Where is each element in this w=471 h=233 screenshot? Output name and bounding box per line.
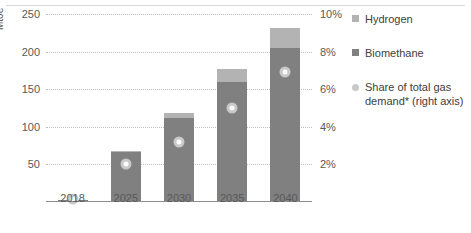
share-data-point[interactable] <box>280 67 291 78</box>
x-axis-tick-label: 2035 <box>220 192 244 204</box>
legend-label: Biomethane <box>365 46 424 60</box>
legend-item-biomethane[interactable]: Biomethane <box>352 46 467 60</box>
y-axis-tick-label: 150 <box>0 83 40 95</box>
secondary-y-axis-tick-label: 8% <box>320 46 354 58</box>
gridline <box>46 14 312 15</box>
share-data-point[interactable] <box>120 159 131 170</box>
secondary-y-axis-tick-label: 2% <box>320 158 354 170</box>
bar-stack[interactable] <box>270 28 300 202</box>
y-axis-tick-label: 200 <box>0 46 40 58</box>
marker-core <box>123 162 128 167</box>
bar-segment-hydrogen[interactable] <box>217 69 247 82</box>
legend-swatch-icon <box>352 49 359 56</box>
x-axis-tick-label: 2040 <box>273 192 297 204</box>
legend-item-share[interactable]: Share of total gas demand* (right axis) <box>352 80 467 108</box>
top-divider <box>6 5 465 6</box>
y-axis-tick-label: 50 <box>0 158 40 170</box>
x-axis-tick-label: 2018 <box>60 192 84 204</box>
marker-core <box>230 106 235 111</box>
share-data-point[interactable] <box>174 136 185 147</box>
secondary-y-axis-tick-label: 10% <box>320 8 354 20</box>
x-axis-tick-label: 2025 <box>114 192 138 204</box>
legend-circle-icon <box>352 84 359 91</box>
legend-item-hydrogen[interactable]: Hydrogen <box>352 12 467 26</box>
plot-area <box>46 14 312 202</box>
legend-label: Share of total gas demand* (right axis) <box>365 80 467 108</box>
bar-stack[interactable] <box>217 69 247 202</box>
secondary-y-axis-tick-label: 6% <box>320 83 354 95</box>
marker-core <box>283 70 288 75</box>
y-axis-tick-label: 250 <box>0 8 40 20</box>
legend-label: Hydrogen <box>365 12 413 26</box>
y-axis-tick-label: 100 <box>0 121 40 133</box>
bar-segment-biomethane[interactable] <box>217 82 247 202</box>
secondary-y-axis-tick-label: 4% <box>320 121 354 133</box>
bar-stack[interactable] <box>164 113 194 202</box>
x-axis-tick-label: 2030 <box>167 192 191 204</box>
bar-segment-hydrogen[interactable] <box>270 28 300 48</box>
chart-container: Mtoe 50100150200250 2%4%6%8%10% 20182025… <box>0 0 471 233</box>
share-data-point[interactable] <box>227 103 238 114</box>
bar-segment-biomethane[interactable] <box>164 118 194 202</box>
legend: Hydrogen Biomethane Share of total gas d… <box>352 12 467 128</box>
legend-swatch-icon <box>352 15 359 22</box>
marker-core <box>177 139 182 144</box>
